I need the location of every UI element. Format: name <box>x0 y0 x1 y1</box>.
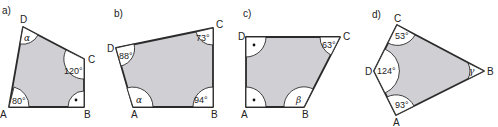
vertex-a: A <box>393 117 400 127</box>
vertex-c: C <box>88 54 95 65</box>
angle-d-value: 88° <box>119 51 133 61</box>
quadrilateral-angles-diagram: a) 80° 120° α A B C D b) α 94° 73° 88° A… <box>0 0 498 127</box>
angle-c-value: 63° <box>322 40 336 50</box>
angle-a-value: 93° <box>395 100 409 110</box>
panel-label: c) <box>243 8 251 19</box>
vertex-a: A <box>0 109 7 120</box>
angle-a-value: α <box>136 95 142 105</box>
vertex-d: D <box>365 66 372 77</box>
panel-label: d) <box>372 9 381 20</box>
vertex-b: B <box>302 109 309 120</box>
panel-c: c) β 63° A B C D <box>238 8 350 120</box>
vertex-a: A <box>131 109 138 120</box>
angle-b-value: β <box>295 95 301 105</box>
angle-b-value: 94° <box>194 95 208 105</box>
angle-c-value: 53° <box>395 31 409 41</box>
angle-b-value: γ <box>469 66 475 76</box>
vertex-b: B <box>211 109 218 120</box>
right-angle-dot <box>253 44 256 47</box>
panel-d: d) 93° γ 53° 124° A B C D <box>365 9 494 127</box>
panel-b: b) α 94° 73° 88° A B C D <box>107 8 223 120</box>
vertex-d: D <box>20 14 27 25</box>
vertex-d: D <box>107 43 114 54</box>
panel-label: a) <box>2 5 11 16</box>
angle-a-value: 80° <box>12 96 26 106</box>
angle-c-value: 73° <box>196 33 210 43</box>
vertex-b: B <box>84 109 91 120</box>
angle-d-value: 124° <box>377 66 396 76</box>
vertex-c: C <box>394 13 401 24</box>
angle-c-value: 120° <box>64 66 83 76</box>
vertex-c: C <box>343 31 350 42</box>
vertex-c: C <box>216 19 223 30</box>
panel-a: a) 80° 120° α A B C D <box>0 5 95 120</box>
panel-label: b) <box>114 8 123 19</box>
right-angle-dot <box>253 99 256 102</box>
vertex-b: B <box>487 66 494 77</box>
vertex-d: D <box>238 31 245 42</box>
vertex-a: A <box>241 109 248 120</box>
angle-d-value: α <box>24 33 30 43</box>
right-angle-dot <box>75 99 78 102</box>
